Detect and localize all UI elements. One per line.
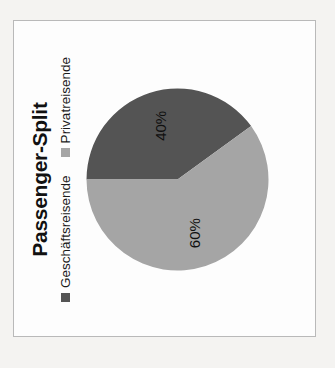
pie-slice-label: 40% xyxy=(152,111,169,141)
rotated-chart-stage: Passenger-Split Geschäftsreisende Privat… xyxy=(14,21,316,337)
pie-chart-svg: 40%60% xyxy=(86,88,269,271)
legend-swatch-icon-geschaeftsreisende xyxy=(61,293,70,302)
legend-item-privatreisende[interactable]: Privatreisende xyxy=(58,57,73,157)
chart-title: Passenger-Split xyxy=(28,21,52,337)
legend-item-geschaeftsreisende[interactable]: Geschäftsreisende xyxy=(58,175,73,302)
legend-swatch-icon-privatreisende xyxy=(61,148,70,157)
pie-chart: 40%60% xyxy=(86,88,269,271)
pie-slice-label: 60% xyxy=(186,218,203,248)
legend-label-privatreisende: Privatreisende xyxy=(58,57,73,143)
legend-label-geschaeftsreisende: Geschäftsreisende xyxy=(58,175,73,288)
chart-panel: Passenger-Split Geschäftsreisende Privat… xyxy=(13,20,316,337)
chart-legend: Geschäftsreisende Privatreisende xyxy=(58,21,73,337)
